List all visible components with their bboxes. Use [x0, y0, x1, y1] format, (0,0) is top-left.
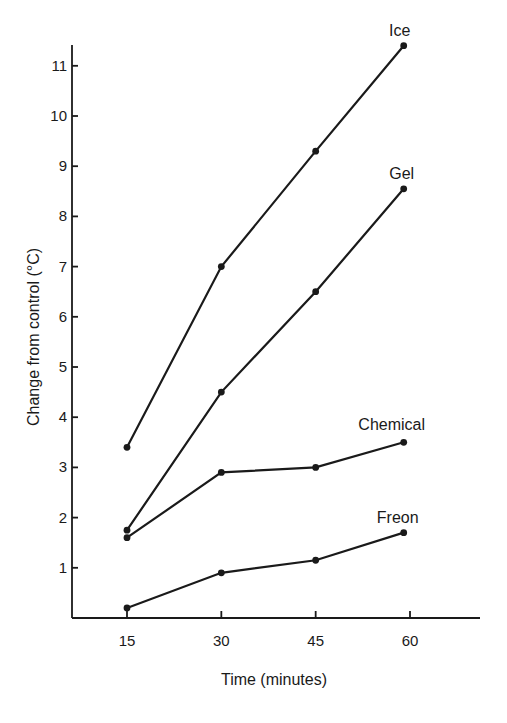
y-tick-label: 2 [59, 509, 67, 526]
series-line [127, 533, 404, 608]
x-tick-label: 60 [402, 632, 419, 649]
data-point-marker [124, 534, 131, 541]
series-group: IceGelChemicalFreon [124, 22, 425, 612]
data-point-marker [312, 557, 319, 564]
series-line [127, 442, 404, 537]
series-label: Ice [389, 22, 410, 39]
series-label: Gel [389, 165, 414, 182]
data-point-marker [312, 288, 319, 295]
series-line [127, 46, 404, 448]
x-tick-label: 45 [307, 632, 324, 649]
x-axis-label: Time (minutes) [221, 671, 327, 688]
y-tick-label: 4 [59, 408, 67, 425]
y-axis-label: Change from control (°C) [25, 248, 42, 426]
y-tick-label: 11 [51, 57, 67, 74]
y-tick-label: 7 [59, 258, 67, 275]
data-point-marker [400, 185, 407, 192]
series-label: Chemical [358, 416, 425, 433]
y-ticks: 1234567891011 [50, 57, 78, 576]
line-chart: 1234567891011 15304560 IceGelChemicalFre… [0, 0, 507, 723]
y-tick-label: 8 [59, 207, 67, 224]
data-point-marker [400, 42, 407, 49]
data-point-marker [218, 263, 225, 270]
data-point-marker [218, 569, 225, 576]
axes [72, 45, 480, 618]
data-point-marker [124, 527, 131, 534]
y-tick-label: 6 [59, 308, 67, 325]
y-tick-label: 1 [59, 559, 67, 576]
data-point-marker [124, 605, 131, 612]
data-point-marker [312, 148, 319, 155]
x-ticks: 15304560 [119, 611, 419, 649]
y-tick-label: 9 [59, 157, 67, 174]
y-tick-label: 10 [50, 107, 67, 124]
data-point-marker [218, 469, 225, 476]
series-line [127, 189, 404, 530]
series-ice: Ice [124, 22, 411, 451]
series-freon: Freon [124, 509, 419, 612]
data-point-marker [218, 389, 225, 396]
data-point-marker [400, 529, 407, 536]
x-tick-label: 15 [119, 632, 136, 649]
data-point-marker [400, 439, 407, 446]
series-label: Freon [377, 509, 419, 526]
series-gel: Gel [124, 165, 415, 534]
y-tick-label: 5 [59, 358, 67, 375]
x-tick-label: 30 [213, 632, 230, 649]
data-point-marker [312, 464, 319, 471]
data-point-marker [124, 444, 131, 451]
y-tick-label: 3 [59, 458, 67, 475]
